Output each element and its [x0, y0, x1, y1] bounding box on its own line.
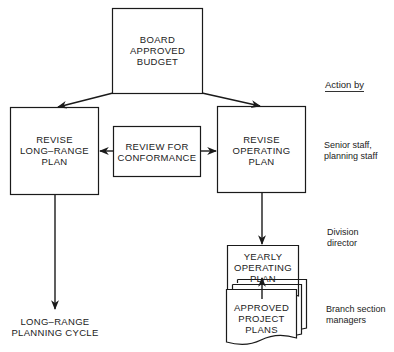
node-review-label: REVIEW FOR CONFORMANCE: [113, 141, 201, 163]
node-operating-label: REVISE OPERATING PLAN: [217, 134, 306, 167]
node-approved-label: APPROVED PROJECT PLANS: [226, 302, 297, 335]
actor-division-director: Division director: [327, 227, 359, 249]
arrow-board-to-operating: [202, 93, 260, 106]
node-long-range-label: REVISE LONG–RANGE PLAN: [10, 134, 99, 167]
arrow-board-to-long-range: [58, 93, 113, 107]
node-yearly-label: YEARLY OPERATING PLAN: [227, 251, 299, 284]
actor-senior-staff: Senior staff, planning staff: [324, 140, 377, 162]
actor-branch-managers: Branch section managers: [326, 304, 386, 326]
action-by-heading: Action by: [325, 79, 364, 92]
node-cycle-label: LONG–RANGE PLANNING CYCLE: [5, 316, 105, 338]
node-board-label: BOARD APPROVED BUDGET: [112, 34, 203, 67]
